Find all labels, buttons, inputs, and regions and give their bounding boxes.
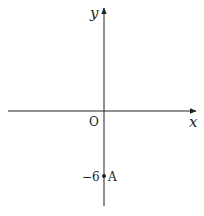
y-axis-label: y [89,4,99,22]
point-a [102,174,106,178]
x-axis-label: x [189,113,198,131]
coordinate-plane: y x O −6 A [0,0,204,216]
origin-label: O [89,115,99,129]
point-a-coordinate-label: −6 [82,170,100,184]
point-a-label: A [107,170,117,184]
